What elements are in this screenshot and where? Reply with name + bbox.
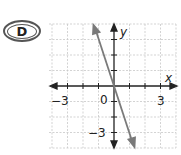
x-tick-label-neg3: −3: [51, 94, 69, 108]
y-tick-label-neg3: −3: [88, 126, 106, 140]
y-axis-up-arrow-icon: [111, 24, 117, 31]
y-axis-down-arrow-icon: [111, 141, 117, 148]
coordinate-graph: y x −3 0 3 −3: [0, 0, 181, 155]
line-up-arrow-icon: [93, 25, 100, 34]
y-axis-label: y: [119, 25, 128, 39]
x-axis-label: x: [164, 71, 173, 85]
x-axis-left-arrow-icon: [50, 83, 57, 89]
line-down-arrow-icon: [129, 138, 136, 148]
origin-label: 0: [100, 93, 108, 107]
x-tick-label-3: 3: [157, 94, 165, 108]
